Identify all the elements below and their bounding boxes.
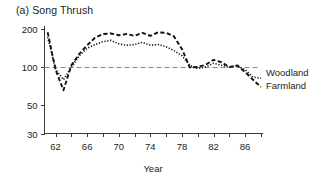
y-tick-label-100: 100: [22, 62, 38, 73]
chart-figure: (a) Song Thrush 2001005030 6266707478828…: [0, 0, 317, 186]
x-tick-label-62: 62: [50, 141, 61, 152]
y-tick-label-50: 50: [27, 100, 38, 111]
x-tick-label-66: 66: [82, 141, 93, 152]
legend: Woodland Farmland: [266, 67, 309, 91]
series-line-woodland: [48, 37, 261, 80]
series-line-farmland: [48, 32, 261, 90]
x-axis-group: 62667074788286 Year: [45, 134, 263, 175]
x-tick-label-82: 82: [208, 141, 219, 152]
x-axis-title: Year: [143, 163, 162, 174]
y-axis-group: 2001005030: [22, 24, 45, 140]
x-tick-label-78: 78: [177, 141, 188, 152]
x-tick-label-70: 70: [113, 141, 124, 152]
y-axis-tick-labels: 2001005030: [22, 24, 38, 140]
legend-item-woodland: Woodland: [266, 67, 309, 78]
x-tick-label-86: 86: [240, 141, 251, 152]
x-axis-ticks: [57, 134, 262, 138]
x-tick-label-74: 74: [145, 141, 156, 152]
legend-item-farmland: Farmland: [266, 80, 306, 91]
song-thrush-line-chart: 2001005030 62667074788286 Year Woodland …: [0, 0, 317, 186]
y-tick-label-200: 200: [22, 24, 38, 35]
y-tick-label-30: 30: [27, 129, 38, 140]
x-axis-tick-labels: 62667074788286: [50, 141, 250, 152]
y-axis-ticks: [41, 30, 45, 135]
